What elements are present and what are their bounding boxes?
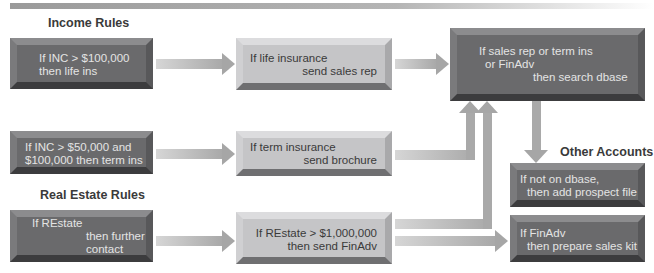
connector-shaft — [395, 150, 475, 160]
rule-box-finadv: If FinAdv then prepare sales kit — [510, 215, 645, 262]
rule-text: then send FinAdv — [250, 240, 377, 253]
rule-box-term-insurance: If term insurance send brochure — [236, 131, 392, 176]
rule-text: then further — [32, 230, 140, 243]
arrow-shaft — [395, 236, 495, 246]
rule-box-search-dbase: If sales rep or term ins or FinAdv then … — [450, 28, 645, 101]
rule-box-inc-50k: If INC > $50,000 and $100,000 then term … — [10, 131, 153, 174]
rule-box-inc-100k: If INC > $100,000 then life ins — [10, 38, 153, 89]
rule-text: send sales rep — [250, 65, 377, 78]
rule-text: If INC > $50,000 and — [25, 141, 140, 154]
rule-text: If REstate > $1,000,000 — [250, 227, 377, 240]
connector-shaft — [395, 219, 490, 229]
arrow-up-icon — [476, 101, 498, 113]
rule-text: or FinAdv — [479, 58, 628, 71]
connector-shaft — [466, 111, 475, 160]
rule-text: If sales rep or term ins — [479, 45, 628, 58]
rule-text: send brochure — [250, 154, 377, 167]
rule-text: If not on dbase, — [520, 173, 634, 186]
arrow-shaft — [156, 236, 222, 246]
rule-text: $100,000 then term ins — [25, 154, 140, 167]
arrow-right-icon — [222, 53, 235, 75]
arrow-right-icon — [436, 53, 449, 75]
rule-text: then add prospect file — [520, 186, 634, 199]
arrow-shaft — [395, 59, 436, 69]
rule-text: If REstate — [32, 217, 140, 230]
rule-text: then life ins — [39, 65, 136, 78]
arrow-right-icon — [222, 143, 235, 165]
arrow-down-icon — [524, 150, 548, 163]
arrow-shaft — [156, 149, 222, 159]
rule-text: then search dbase — [479, 71, 628, 84]
arrow-right-icon — [222, 230, 235, 252]
rule-text: If FinAdv — [520, 227, 634, 240]
rule-text: If INC > $100,000 — [39, 52, 136, 65]
rule-text: If term insurance — [250, 141, 377, 154]
arrow-shaft — [532, 101, 541, 151]
rule-text: If life insurance — [250, 52, 377, 65]
arrow-shaft — [156, 59, 222, 69]
connector-shaft — [483, 111, 492, 229]
heading-other-accounts: Other Accounts — [560, 145, 653, 159]
rule-text: contact — [32, 243, 140, 256]
rule-text: then prepare sales kit — [520, 240, 634, 253]
arrow-right-icon — [495, 230, 508, 252]
heading-real-estate-rules: Real Estate Rules — [40, 188, 145, 202]
rule-box-restate: If REstate then further contact — [10, 210, 153, 262]
rule-box-restate-1m: If REstate > $1,000,000 then send FinAdv — [236, 212, 392, 264]
heading-income-rules: Income Rules — [48, 16, 129, 30]
top-rule — [10, 3, 654, 9]
rule-box-life-insurance: If life insurance send sales rep — [236, 38, 392, 90]
rule-box-not-on-dbase: If not on dbase, then add prospect file — [510, 163, 645, 207]
